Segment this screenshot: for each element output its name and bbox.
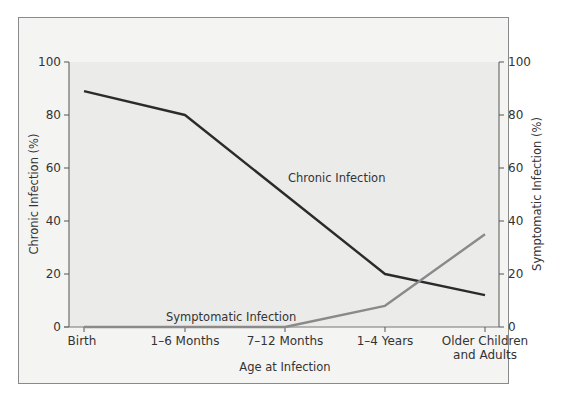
x-axis: Birth1–6 Months7–12 Months1–4 YearsOlder… xyxy=(64,327,528,362)
right-tick-label: 40 xyxy=(508,214,523,228)
left-tick-label: 0 xyxy=(53,320,61,334)
x-axis-title: Age at Infection xyxy=(239,360,330,374)
x-tick-label: Birth xyxy=(68,334,97,348)
x-tick-label: Older Children xyxy=(442,334,528,348)
right-tick-label: 80 xyxy=(508,108,523,122)
left-tick-label: 80 xyxy=(46,108,61,122)
left-tick-label: 40 xyxy=(46,214,61,228)
line-chart: 020406080100 020406080100 Birth1–6 Month… xyxy=(0,0,572,401)
x-tick-label: 1–6 Months xyxy=(151,334,220,348)
right-tick-label: 0 xyxy=(508,320,516,334)
right-y-axis-title: Symptomatic Infection (%) xyxy=(530,117,544,271)
left-y-axis-title: Chronic Infection (%) xyxy=(27,133,41,254)
chronic-series-label: Chronic Infection xyxy=(288,171,385,185)
left-tick-label: 60 xyxy=(46,161,61,175)
left-y-axis: 020406080100 xyxy=(38,55,69,334)
right-tick-label: 20 xyxy=(508,267,523,281)
symptomatic-series-label: Symptomatic Infection xyxy=(166,310,296,324)
x-tick-label: and Adults xyxy=(453,348,517,362)
right-tick-label: 60 xyxy=(508,161,523,175)
left-tick-label: 100 xyxy=(38,55,61,69)
right-tick-label: 100 xyxy=(508,55,531,69)
x-tick-label: 7–12 Months xyxy=(247,334,324,348)
left-tick-label: 20 xyxy=(46,267,61,281)
x-tick-label: 1–4 Years xyxy=(357,334,414,348)
right-y-axis: 020406080100 xyxy=(499,55,531,334)
